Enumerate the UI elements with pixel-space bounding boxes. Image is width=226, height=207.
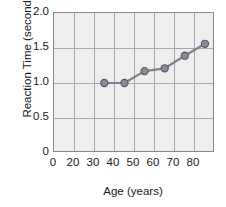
y-tick-label: 1.5	[5, 40, 49, 53]
data-point-marker	[101, 79, 108, 86]
y-tick-label: 0.5	[5, 110, 49, 123]
data-point-marker	[161, 65, 168, 72]
y-tick-label: 2.0	[5, 5, 49, 18]
data-point-marker	[201, 40, 208, 47]
plot-inner	[54, 13, 213, 151]
plot-area	[53, 12, 214, 152]
chart-figure: Reaction Time (seconds) 2.0 1.5 1.0 0.5 …	[0, 0, 226, 207]
x-axis-title: Age (years)	[52, 185, 214, 197]
data-point-marker	[181, 52, 188, 59]
data-point-marker	[121, 79, 128, 86]
data-series-line	[54, 13, 213, 151]
data-point-marker	[141, 68, 148, 75]
x-tick-label: 80	[180, 155, 206, 169]
y-tick-label: 1.0	[5, 75, 49, 88]
